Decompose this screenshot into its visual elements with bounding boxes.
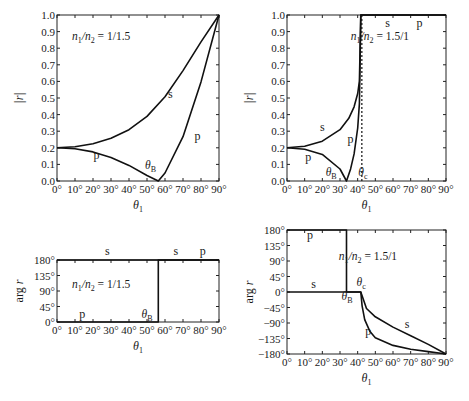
- y-tick-label: 0.1: [41, 158, 55, 170]
- y-tick-label: 90°: [270, 255, 285, 267]
- curve-label: s: [168, 87, 173, 101]
- x-tick-label: 70°: [175, 324, 190, 336]
- x-tick-label: 90°: [438, 183, 453, 195]
- curve-label: p: [79, 307, 85, 321]
- curve-label: p: [305, 150, 311, 164]
- y-axis-label: arg r: [242, 280, 256, 303]
- x-tick-label: 60°: [385, 183, 400, 195]
- fresnel-figure: 0°10°20°30°40°50°60°70°80°90°0.00.10.20.…: [0, 0, 469, 401]
- y-tick-label: 0.2: [41, 142, 55, 154]
- x-axis-label: θ1: [362, 198, 372, 214]
- curve-label: s: [311, 277, 316, 291]
- x-tick-label: 40°: [121, 324, 136, 336]
- y-tick-label: 135°: [34, 270, 55, 282]
- x-axis-label: θ1: [362, 371, 372, 387]
- x-tick-label: 90°: [211, 324, 226, 336]
- x-tick-label: 20°: [315, 183, 330, 195]
- y-tick-label: 1.0: [41, 9, 55, 21]
- x-tick-label: 20°: [85, 324, 100, 336]
- curve-label: p: [417, 16, 423, 30]
- index-ratio-annotation: n1/n2 = 1.5/1: [339, 250, 398, 265]
- curve-label: p: [194, 129, 200, 143]
- y-tick-label: 0.7: [271, 59, 285, 71]
- x-tick-label: 50°: [139, 324, 154, 336]
- y-tick-label: 0.4: [41, 109, 55, 121]
- index-ratio-annotation: n1/n2 = 1.5/1: [351, 30, 410, 45]
- curve-label: p: [94, 148, 100, 162]
- y-tick-label: 0.6: [41, 75, 55, 87]
- y-axis-label: |r|: [12, 92, 26, 103]
- curve-label: s: [405, 317, 410, 331]
- y-axis-label: |r|: [242, 92, 256, 103]
- y-tick-label: 0.6: [271, 75, 285, 87]
- curve-label: s: [173, 244, 178, 258]
- index-ratio-annotation: n1/n2 = 1/1.5: [72, 278, 131, 293]
- angle-annotation: θc: [358, 166, 368, 181]
- y-tick-label: 0.7: [41, 59, 55, 71]
- x-tick-label: 50°: [139, 183, 154, 195]
- x-tick-label: 60°: [157, 183, 172, 195]
- x-tick-label: 30°: [103, 324, 118, 336]
- x-tick-label: 50°: [368, 183, 383, 195]
- x-tick-label: 20°: [85, 183, 100, 195]
- chart-top-left: 0°10°20°30°40°50°60°70°80°90°0.00.10.20.…: [12, 9, 227, 214]
- y-tick-label: −45°: [263, 302, 285, 314]
- x-tick-label: 30°: [332, 356, 347, 368]
- x-tick-label: 70°: [175, 183, 190, 195]
- x-tick-label: 20°: [315, 356, 330, 368]
- y-tick-label: 0.3: [271, 125, 285, 137]
- angle-annotation: θB: [326, 166, 337, 181]
- y-tick-label: 0.8: [41, 42, 55, 54]
- y-tick-label: 0°: [275, 286, 285, 298]
- x-tick-label: 80°: [421, 356, 436, 368]
- x-tick-label: 70°: [403, 183, 418, 195]
- y-tick-label: 90°: [40, 285, 55, 297]
- x-tick-label: 30°: [332, 183, 347, 195]
- y-tick-label: 180°: [34, 254, 55, 266]
- x-tick-label: 40°: [350, 356, 365, 368]
- y-tick-label: 0.9: [41, 26, 55, 38]
- x-tick-label: 10°: [67, 183, 82, 195]
- y-tick-label: 45°: [40, 301, 55, 313]
- index-ratio-annotation: n1/n2 = 1/1.5: [72, 30, 131, 45]
- y-tick-label: 180°: [264, 224, 285, 236]
- x-tick-label: 40°: [121, 183, 136, 195]
- y-tick-label: 0.0: [271, 175, 285, 187]
- chart-bottom-left: 0°10°20°30°40°50°60°70°80°90°0°45°90°135…: [12, 244, 227, 355]
- angle-annotation: θB: [142, 308, 153, 323]
- y-tick-label: −135°: [258, 333, 285, 345]
- curve-label: p: [365, 324, 371, 338]
- x-tick-label: 50°: [368, 356, 383, 368]
- curve-label: p: [307, 228, 313, 242]
- y-tick-label: 0.1: [271, 158, 285, 170]
- x-tick-label: 80°: [193, 324, 208, 336]
- curve-label: s: [320, 120, 325, 134]
- x-tick-label: 10°: [297, 183, 312, 195]
- x-tick-label: 30°: [103, 183, 118, 195]
- curve-label: s: [105, 244, 110, 258]
- y-tick-label: −90°: [263, 317, 285, 329]
- chart-bottom-right: 0°10°20°30°40°50°60°70°80°90°−180°−135°−…: [242, 224, 454, 387]
- angle-annotation: θc: [357, 276, 367, 291]
- curve-label: p: [348, 132, 354, 146]
- x-tick-label: 90°: [211, 183, 226, 195]
- x-tick-label: 10°: [67, 324, 82, 336]
- y-tick-label: 0.4: [271, 109, 285, 121]
- y-tick-label: 0.0: [41, 175, 55, 187]
- y-tick-label: 0.5: [41, 92, 55, 104]
- x-tick-label: 80°: [421, 183, 436, 195]
- y-tick-label: 0°: [45, 316, 55, 328]
- x-tick-label: 60°: [385, 356, 400, 368]
- x-tick-label: 90°: [438, 356, 453, 368]
- x-tick-label: 40°: [350, 183, 365, 195]
- x-tick-label: 60°: [157, 324, 172, 336]
- angle-annotation: θB: [145, 159, 156, 174]
- y-tick-label: 0.3: [41, 125, 55, 137]
- y-tick-label: 135°: [264, 240, 285, 252]
- curve-label: p: [200, 244, 206, 258]
- x-axis-label: θ1: [133, 198, 143, 214]
- chart-top-right: 0°10°20°30°40°50°60°70°80°90°0.00.10.20.…: [242, 9, 454, 214]
- x-tick-label: 10°: [297, 356, 312, 368]
- y-tick-label: 0.9: [271, 26, 285, 38]
- y-tick-label: 1.0: [271, 9, 285, 21]
